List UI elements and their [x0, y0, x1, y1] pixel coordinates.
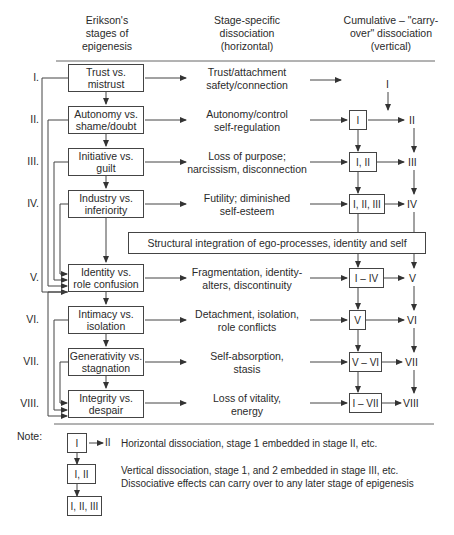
carry-numeral-8: VIII: [403, 397, 419, 409]
cumulative-box-4: I, II, III: [349, 194, 385, 214]
stage-numeral-6: VI.: [9, 313, 39, 325]
carry-numeral-3: III: [408, 156, 417, 168]
stage-numeral-7: VII.: [9, 355, 39, 367]
carry-numeral-5: V: [409, 272, 416, 284]
stage-box-initiative: Initiative vs. guilt: [68, 148, 144, 176]
dissociation-text-4: Futility; diminished self-esteem: [180, 192, 314, 218]
dissociation-text-6: Detachment, isolation, role conflicts: [180, 308, 314, 334]
stage-numeral-1: I.: [9, 71, 39, 83]
note-text-horizontal: Horizontal dissociation, stage 1 embedde…: [121, 437, 377, 450]
stage-box-industry: Industry vs. inferiority: [68, 190, 144, 218]
stage-box-identity: Identity vs. role confusion: [68, 264, 144, 292]
note-arrow-target: II: [105, 437, 111, 448]
dissociation-text-5: Fragmentation, identity- alters, discont…: [180, 266, 314, 292]
dissociation-text-8: Loss of vitality, energy: [180, 392, 314, 418]
structural-integration-box: Structural integration of ego-processes,…: [128, 232, 426, 254]
stage-numeral-2: II.: [9, 113, 39, 125]
note-box-horizontal: I: [67, 433, 87, 453]
carry-numeral-6: VI: [407, 314, 417, 326]
cumulative-box-5: I – IV: [349, 268, 384, 288]
note-text-vertical: Vertical dissociation, stage 1, and 2 em…: [121, 464, 414, 490]
cumulative-box-6: V: [349, 310, 366, 330]
cumulative-box-3: I, II: [349, 152, 377, 172]
stage-numeral-8: VIII.: [9, 397, 39, 409]
stage-box-integrity: Integrity vs. despair: [68, 390, 144, 418]
carry-numeral-4: IV: [407, 198, 417, 210]
stage-box-trust: Trust vs. mistrust: [68, 64, 144, 92]
stage-box-generativity: Generativity vs. stagnation: [68, 348, 144, 376]
carry-numeral-2: II: [409, 114, 415, 126]
carry-numeral-1: I: [386, 78, 389, 90]
stage-numeral-5: V.: [9, 271, 39, 283]
stage-box-autonomy: Autonomy vs. shame/doubt: [68, 106, 144, 134]
cumulative-box-8: I – VII: [349, 393, 382, 413]
stage-numeral-4: IV.: [9, 197, 39, 209]
note-label: Note:: [17, 430, 42, 442]
dissociation-text-7: Self-absorption, stasis: [180, 350, 314, 376]
note-box-vertical-2: I, II, III: [67, 496, 102, 516]
cumulative-box-2: I: [349, 110, 367, 130]
dissociation-text-1: Trust/attachment safety/connection: [180, 66, 314, 92]
cumulative-box-7: V – VI: [349, 352, 382, 372]
stage-box-intimacy: Intimacy vs. isolation: [68, 306, 144, 334]
dissociation-text-2: Autonomy/control self-regulation: [180, 108, 314, 134]
note-box-vertical-1: I, II: [67, 464, 96, 484]
dissociation-text-3: Loss of purpose; narcissism, disconnecti…: [180, 150, 314, 176]
stage-numeral-3: III.: [9, 155, 39, 167]
carry-numeral-7: VII: [405, 356, 418, 368]
